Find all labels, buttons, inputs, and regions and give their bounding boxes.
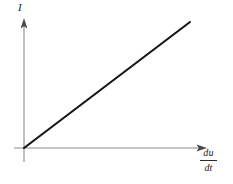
x-axis-label-numerator: du: [202, 148, 214, 158]
y-axis-label: I: [18, 2, 22, 13]
plot-area: [0, 0, 233, 184]
x-axis-label-denominator: dt: [203, 163, 213, 173]
data-line-proportional: [24, 22, 190, 148]
line-graph-figure: I du dt: [0, 0, 233, 184]
fraction-bar: [200, 160, 217, 161]
x-axis-label: du dt: [200, 148, 217, 173]
